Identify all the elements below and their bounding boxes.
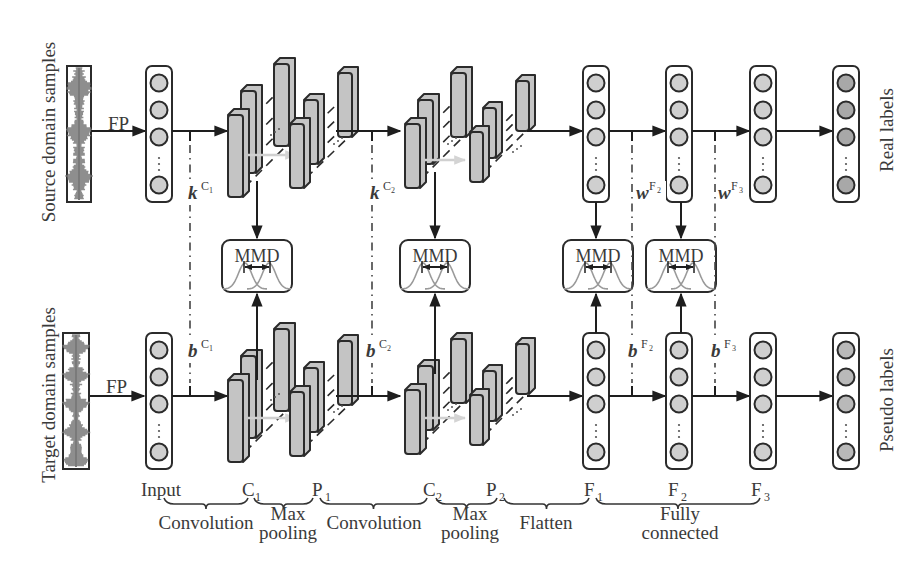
real-labels-column [833, 66, 859, 202]
neuron [588, 177, 605, 194]
slab-back [451, 333, 472, 403]
slab-front [470, 389, 489, 445]
layer-subscript: 2 [499, 490, 505, 504]
stage-text: Flatten [520, 512, 573, 533]
ellipsis-dot [595, 436, 597, 438]
slab-back [338, 335, 358, 405]
neuron [838, 177, 855, 194]
slab-face [290, 392, 304, 456]
param-base: w [718, 182, 731, 203]
ellipsis-dot [520, 408, 522, 410]
ellipsis-dot [278, 393, 280, 395]
ellipsis-dot [278, 128, 280, 130]
layer-subscript: 1 [325, 490, 331, 504]
param-base: b [628, 340, 638, 361]
ellipsis-dot [337, 140, 339, 142]
ellipsis-dot [762, 430, 764, 432]
neuron [838, 444, 855, 461]
neuron [838, 369, 855, 386]
ellipsis-dot [447, 409, 449, 411]
layer-name: F [668, 479, 679, 500]
stage-label-conv1: Convolution [158, 512, 254, 533]
ellipsis-dot [595, 424, 597, 426]
param-base: b [188, 340, 198, 361]
neuron [151, 129, 168, 146]
neuron [838, 342, 855, 359]
ellipsis-dot [158, 436, 160, 438]
param-base: b [366, 340, 376, 361]
f3-column-target [750, 333, 776, 469]
source-domain-label: Source domain samples [38, 42, 59, 222]
neuron [588, 444, 605, 461]
neuron [588, 75, 605, 92]
ellipsis-dot [762, 424, 764, 426]
layer-name: C [423, 479, 436, 500]
param-sup: F [724, 337, 731, 351]
c2-feature-maps-source [405, 67, 472, 188]
slab-face [405, 124, 420, 188]
ellipsis-dot [512, 151, 514, 153]
neuron [671, 75, 688, 92]
c2-feature-maps-target [405, 333, 472, 454]
ellipsis-dot [516, 148, 518, 150]
source-signal [65, 66, 93, 202]
param-sub: 1 [209, 344, 213, 353]
p2-feature-maps-target [470, 338, 535, 445]
slab-face [470, 395, 483, 445]
ellipsis-dot [595, 163, 597, 165]
neuron [671, 396, 688, 413]
slab-back [451, 67, 472, 137]
neuron [588, 369, 605, 386]
mmd-label: MMD [234, 246, 279, 266]
input-column-source [146, 66, 172, 202]
layer-label-c1: C1 [242, 479, 261, 504]
param-sup: C [379, 337, 387, 351]
layer-label-input: Input [141, 479, 182, 500]
stage-label-pool2: Maxpooling [441, 503, 500, 543]
target-signal [62, 333, 91, 469]
neuron [588, 102, 605, 119]
ellipsis-dot [158, 169, 160, 171]
ellipsis-dot [845, 430, 847, 432]
ellipsis-dot [270, 134, 272, 136]
neuron [755, 342, 772, 359]
ellipsis-dot [451, 140, 453, 142]
mmd-label: MMD [412, 246, 457, 266]
ellipsis-dot [337, 408, 339, 410]
neuron [755, 177, 772, 194]
slab-face [274, 64, 289, 146]
stage-text: Convolution [326, 512, 422, 533]
slab-back [516, 338, 535, 394]
neuron [588, 396, 605, 413]
neuron [151, 396, 168, 413]
neuron [755, 129, 772, 146]
layer-label-f3: F3 [751, 479, 770, 504]
stage-text: Convolution [158, 512, 254, 533]
param-sub: 3 [739, 186, 743, 195]
param-sup: F [649, 179, 656, 193]
neuron [151, 75, 168, 92]
ellipsis-dot [595, 157, 597, 159]
ellipsis-dot [158, 163, 160, 165]
ellipsis-dot [520, 145, 522, 147]
ellipsis-dot [678, 169, 680, 171]
neuron [755, 75, 772, 92]
slab-front [405, 384, 426, 454]
ellipsis-dot [341, 137, 343, 139]
ellipsis-dot [678, 157, 680, 159]
neuron [755, 396, 772, 413]
param-sup: C [201, 337, 209, 351]
ellipsis-dot [678, 436, 680, 438]
real-labels-label: Real labels [876, 88, 897, 172]
slab-front [290, 386, 310, 456]
neuron [838, 396, 855, 413]
fp-label-target: FP [106, 376, 127, 397]
slab-face [470, 132, 483, 182]
input-column-target [146, 333, 172, 469]
mmd-label: MMD [658, 246, 703, 266]
stage-text: pooling [259, 522, 318, 543]
neuron [671, 102, 688, 119]
slab-front [470, 126, 489, 182]
param-sup: F [641, 337, 648, 351]
ellipsis-dot [595, 169, 597, 171]
